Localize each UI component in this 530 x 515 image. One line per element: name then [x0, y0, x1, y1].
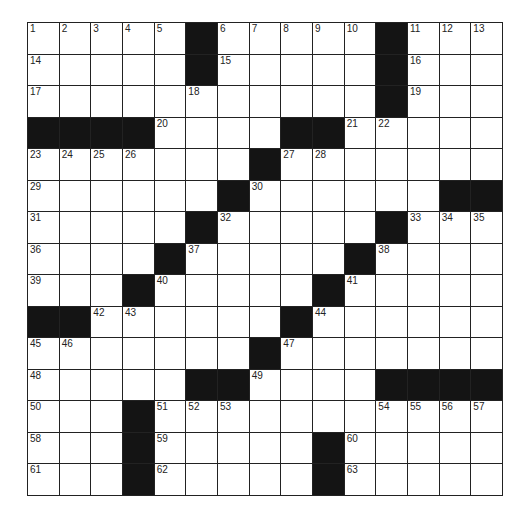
grid-cell[interactable]: 60 [345, 433, 376, 464]
grid-cell[interactable] [471, 307, 502, 338]
grid-cell[interactable] [218, 275, 249, 306]
grid-cell[interactable]: 43 [123, 307, 154, 338]
grid-cell[interactable] [408, 275, 439, 306]
grid-cell[interactable] [123, 244, 154, 275]
grid-cell[interactable]: 12 [440, 23, 471, 54]
grid-cell[interactable] [91, 86, 122, 117]
grid-cell[interactable] [281, 181, 312, 212]
grid-cell[interactable] [376, 307, 407, 338]
grid-cell[interactable] [218, 118, 249, 149]
grid-cell[interactable] [91, 55, 122, 86]
grid-cell[interactable] [91, 464, 122, 495]
grid-cell[interactable] [186, 275, 217, 306]
grid-cell[interactable] [408, 118, 439, 149]
grid-cell[interactable] [60, 244, 91, 275]
grid-cell[interactable]: 26 [123, 149, 154, 180]
grid-cell[interactable]: 24 [60, 149, 91, 180]
grid-cell[interactable]: 35 [471, 212, 502, 243]
grid-cell[interactable] [408, 181, 439, 212]
grid-cell[interactable] [186, 433, 217, 464]
grid-cell[interactable] [123, 338, 154, 369]
grid-cell[interactable]: 3 [91, 23, 122, 54]
grid-cell[interactable]: 52 [186, 401, 217, 432]
grid-cell[interactable]: 58 [28, 433, 59, 464]
grid-cell[interactable] [60, 401, 91, 432]
grid-cell[interactable] [313, 370, 344, 401]
grid-cell[interactable] [281, 464, 312, 495]
grid-cell[interactable]: 37 [186, 244, 217, 275]
grid-cell[interactable]: 15 [218, 55, 249, 86]
grid-cell[interactable] [91, 244, 122, 275]
grid-cell[interactable]: 19 [408, 86, 439, 117]
grid-cell[interactable] [186, 118, 217, 149]
grid-cell[interactable] [250, 433, 281, 464]
grid-cell[interactable] [345, 370, 376, 401]
grid-cell[interactable]: 63 [345, 464, 376, 495]
grid-cell[interactable] [91, 338, 122, 369]
grid-cell[interactable] [471, 433, 502, 464]
grid-cell[interactable]: 29 [28, 181, 59, 212]
grid-cell[interactable]: 13 [471, 23, 502, 54]
grid-cell[interactable] [345, 181, 376, 212]
grid-cell[interactable]: 33 [408, 212, 439, 243]
grid-cell[interactable]: 42 [91, 307, 122, 338]
grid-cell[interactable]: 51 [155, 401, 186, 432]
grid-cell[interactable] [250, 212, 281, 243]
grid-cell[interactable] [155, 55, 186, 86]
grid-cell[interactable] [376, 275, 407, 306]
grid-cell[interactable]: 9 [313, 23, 344, 54]
grid-cell[interactable] [440, 55, 471, 86]
grid-cell[interactable]: 5 [155, 23, 186, 54]
grid-cell[interactable] [471, 118, 502, 149]
grid-cell[interactable] [471, 86, 502, 117]
grid-cell[interactable] [91, 401, 122, 432]
grid-cell[interactable]: 14 [28, 55, 59, 86]
grid-cell[interactable] [281, 433, 312, 464]
grid-cell[interactable] [123, 212, 154, 243]
grid-cell[interactable] [345, 307, 376, 338]
grid-cell[interactable]: 36 [28, 244, 59, 275]
grid-cell[interactable]: 21 [345, 118, 376, 149]
grid-cell[interactable] [345, 212, 376, 243]
grid-cell[interactable] [376, 338, 407, 369]
grid-cell[interactable] [250, 244, 281, 275]
grid-cell[interactable] [440, 433, 471, 464]
grid-cell[interactable] [91, 181, 122, 212]
grid-cell[interactable] [345, 55, 376, 86]
grid-cell[interactable]: 34 [440, 212, 471, 243]
grid-cell[interactable] [218, 244, 249, 275]
grid-cell[interactable] [345, 401, 376, 432]
grid-cell[interactable]: 50 [28, 401, 59, 432]
grid-cell[interactable]: 61 [28, 464, 59, 495]
grid-cell[interactable] [186, 149, 217, 180]
grid-cell[interactable] [281, 370, 312, 401]
grid-cell[interactable] [376, 181, 407, 212]
grid-cell[interactable] [471, 275, 502, 306]
grid-cell[interactable] [281, 401, 312, 432]
grid-cell[interactable]: 56 [440, 401, 471, 432]
grid-cell[interactable]: 20 [155, 118, 186, 149]
grid-cell[interactable] [155, 212, 186, 243]
grid-cell[interactable]: 53 [218, 401, 249, 432]
grid-cell[interactable] [408, 433, 439, 464]
grid-cell[interactable] [471, 149, 502, 180]
grid-cell[interactable] [123, 55, 154, 86]
grid-cell[interactable] [440, 338, 471, 369]
grid-cell[interactable] [250, 275, 281, 306]
grid-cell[interactable] [345, 149, 376, 180]
grid-cell[interactable] [408, 149, 439, 180]
grid-cell[interactable] [91, 212, 122, 243]
grid-cell[interactable] [281, 86, 312, 117]
grid-cell[interactable] [60, 370, 91, 401]
grid-cell[interactable]: 17 [28, 86, 59, 117]
grid-cell[interactable] [123, 86, 154, 117]
grid-cell[interactable] [250, 464, 281, 495]
grid-cell[interactable] [471, 338, 502, 369]
grid-cell[interactable] [155, 181, 186, 212]
grid-cell[interactable] [155, 149, 186, 180]
grid-cell[interactable] [345, 338, 376, 369]
grid-cell[interactable] [313, 338, 344, 369]
grid-cell[interactable] [313, 86, 344, 117]
grid-cell[interactable]: 1 [28, 23, 59, 54]
grid-cell[interactable] [250, 118, 281, 149]
